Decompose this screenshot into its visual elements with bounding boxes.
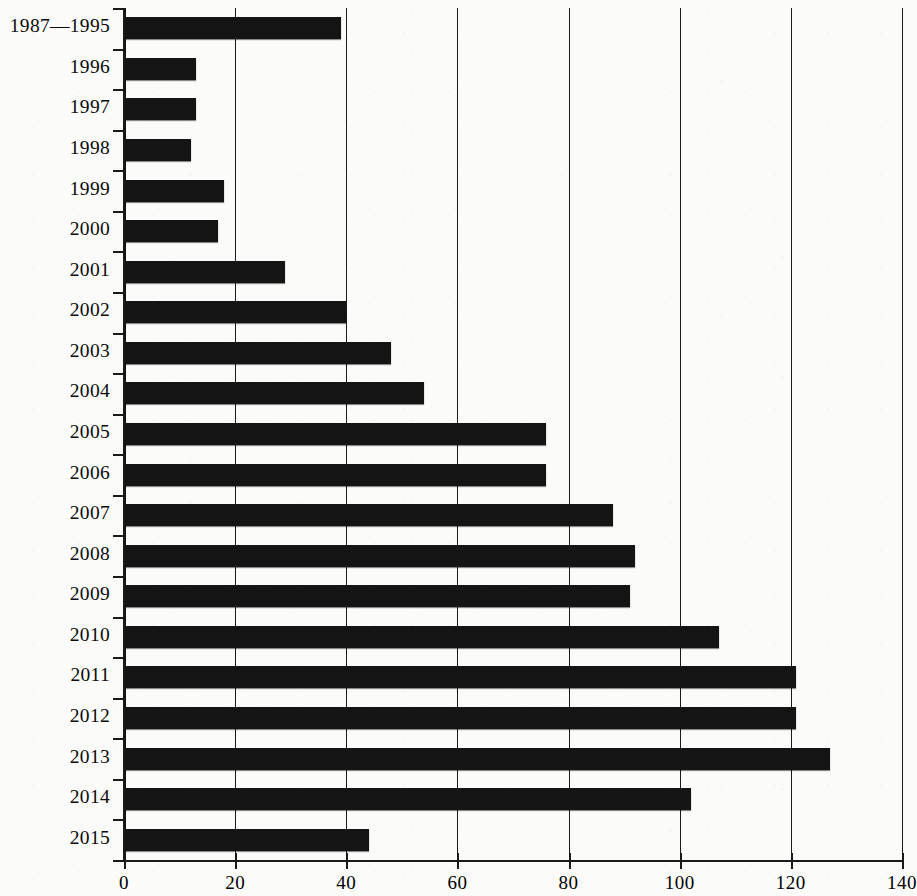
y-tick-label: 2001 (70, 259, 110, 281)
gridline-120 (791, 8, 792, 860)
y-tick (113, 170, 124, 172)
y-tick-label: 2002 (70, 299, 110, 321)
y-tick-label: 1996 (70, 56, 110, 78)
x-tick (791, 853, 793, 869)
x-tick-label: 80 (559, 872, 579, 894)
bar (124, 98, 196, 120)
y-tick-label: 2014 (70, 786, 110, 808)
y-tick-label: 2003 (70, 340, 110, 362)
y-tick-label: 2015 (70, 827, 110, 849)
y-tick-label: 2008 (70, 543, 110, 565)
x-tick-label: 140 (887, 872, 917, 894)
bar (124, 261, 285, 283)
x-tick-label: 40 (336, 872, 356, 894)
x-tick (124, 853, 126, 869)
x-tick-label: 60 (447, 872, 467, 894)
bar-chart: 1987—19951996199719981999200020012002200… (0, 0, 917, 896)
y-tick-label: 2007 (70, 502, 110, 524)
gridline-80 (569, 8, 570, 860)
bar (124, 180, 224, 202)
x-tick-label: 20 (225, 872, 245, 894)
bar (124, 220, 218, 242)
y-tick (113, 130, 124, 132)
y-tick (113, 251, 124, 253)
y-tick (113, 698, 124, 700)
bar (124, 464, 546, 486)
y-tick (113, 617, 124, 619)
y-tick (113, 738, 124, 740)
y-tick (113, 779, 124, 781)
x-tick-label: 0 (119, 872, 129, 894)
y-tick (113, 414, 124, 416)
bar (124, 707, 796, 729)
y-tick-label: 2011 (71, 664, 110, 686)
bar (124, 585, 630, 607)
y-tick-label: 1998 (70, 137, 110, 159)
y-tick-label: 2000 (70, 218, 110, 240)
bar (124, 423, 546, 445)
x-tick (235, 853, 237, 869)
gridline-140 (902, 8, 903, 860)
bar (124, 788, 691, 810)
x-tick (346, 853, 348, 869)
bar (124, 17, 341, 39)
y-tick (113, 89, 124, 91)
bar (124, 626, 719, 648)
y-tick (113, 333, 124, 335)
bar (124, 301, 346, 323)
bar (124, 504, 613, 526)
x-tick (457, 853, 459, 869)
x-tick-label: 100 (665, 872, 695, 894)
y-tick (113, 819, 124, 821)
bar (124, 139, 191, 161)
y-tick (113, 495, 124, 497)
y-tick (113, 292, 124, 294)
bar (124, 382, 424, 404)
y-tick-label: 2009 (70, 583, 110, 605)
plot-area (124, 8, 902, 860)
y-tick (113, 860, 124, 862)
y-tick-label: 2012 (70, 705, 110, 727)
y-tick (113, 373, 124, 375)
y-tick-label: 2006 (70, 462, 110, 484)
bar (124, 58, 196, 80)
y-tick (113, 535, 124, 537)
y-tick (113, 8, 124, 10)
x-tick-label: 120 (776, 872, 806, 894)
x-tick (680, 853, 682, 869)
y-tick-label: 1999 (70, 178, 110, 200)
bar (124, 748, 830, 770)
y-tick-label: 2005 (70, 421, 110, 443)
y-axis-line (123, 8, 125, 862)
y-tick-label: 1997 (70, 96, 110, 118)
gridline-100 (680, 8, 681, 860)
x-axis-line (124, 860, 902, 862)
bar (124, 666, 796, 688)
y-tick-label: 2013 (70, 746, 110, 768)
bar (124, 342, 391, 364)
y-tick (113, 49, 124, 51)
y-tick (113, 454, 124, 456)
x-tick (569, 853, 571, 869)
bar (124, 829, 369, 851)
bar (124, 545, 635, 567)
y-tick-label: 2004 (70, 380, 110, 402)
y-tick (113, 211, 124, 213)
y-tick (113, 576, 124, 578)
y-tick (113, 657, 124, 659)
y-tick-label: 1987—1995 (10, 15, 110, 37)
y-tick-label: 2010 (70, 624, 110, 646)
x-tick (902, 853, 904, 869)
